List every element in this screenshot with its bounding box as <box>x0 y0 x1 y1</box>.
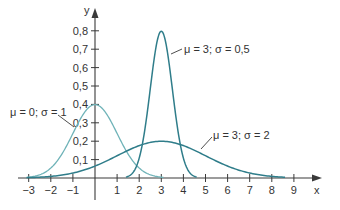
x-tick-label: 3 <box>158 184 164 196</box>
x-tick-label: −3 <box>22 184 35 196</box>
x-tick-label: 2 <box>136 184 142 196</box>
x-tick-label: 9 <box>291 184 297 196</box>
y-tick-label: 0,1 <box>73 154 88 166</box>
normal-distribution-chart: −3−2−1123456789 0,10,20,30,40,50,60,70,8… <box>0 0 340 210</box>
y-axis-label: y <box>84 4 90 16</box>
label-mu0-sigma1: μ = 0; σ = 1 <box>10 106 67 118</box>
axes <box>18 8 322 200</box>
curve-mu3-sigma2 <box>26 141 285 177</box>
y-tick-label: 0,7 <box>73 43 88 55</box>
y-tick-label: 0,5 <box>73 80 88 92</box>
x-tick-label: 6 <box>225 184 231 196</box>
annotations: μ = 0; σ = 1 μ = 3; σ = 0,5 μ = 3; σ = 2 <box>10 43 270 149</box>
y-tick-label: 0,2 <box>73 135 88 147</box>
label-mu3-sigma05: μ = 3; σ = 0,5 <box>184 43 250 55</box>
label-mu3-sigma2: μ = 3; σ = 2 <box>213 129 270 141</box>
x-tick-label: −1 <box>67 184 80 196</box>
y-tick-label: 0,4 <box>73 98 88 110</box>
x-tick-label: 7 <box>247 184 253 196</box>
x-axis-label: x <box>314 184 320 196</box>
x-tick-label: 4 <box>180 184 186 196</box>
y-tick-label: 0,6 <box>73 62 88 74</box>
x-tick-label: 5 <box>202 184 208 196</box>
leader-mu3-sigma05 <box>171 49 182 54</box>
x-tick-label: 1 <box>114 184 120 196</box>
leader-mu3-sigma2 <box>201 137 212 149</box>
y-axis-arrow-icon <box>92 8 99 18</box>
x-axis-arrow-icon <box>312 175 322 182</box>
x-tick-label: −2 <box>45 184 58 196</box>
x-tick-label: 8 <box>269 184 275 196</box>
y-tick-label: 0,8 <box>73 25 88 37</box>
